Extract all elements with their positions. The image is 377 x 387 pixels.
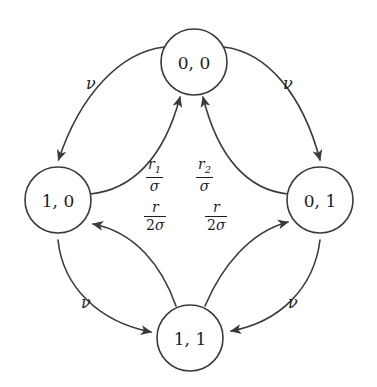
edge-label-r-over-2sigma-right: r 2σ	[205, 200, 227, 233]
denominator-coefficient: 2	[146, 217, 155, 233]
node-label-0-1: 0, 1	[304, 191, 336, 211]
node-label-1-0: 1, 0	[42, 191, 74, 211]
fraction-denominator: 2σ	[144, 217, 166, 233]
edge-11-to-10	[93, 224, 176, 306]
denominator-coefficient: 2	[207, 217, 216, 233]
edge-label-r-over-2sigma-left: r 2σ	[144, 200, 166, 233]
edge-10-to-11	[58, 240, 151, 332]
edge-11-to-01	[205, 222, 288, 306]
edge-label-nu-bottom-right: ν	[288, 295, 298, 311]
fraction-r2-sigma: r2 σ	[196, 157, 213, 194]
fraction-denominator: 2σ	[205, 217, 227, 233]
fraction-numerator: r	[144, 200, 166, 216]
denominator-symbol: σ	[216, 217, 226, 233]
numerator-symbol: r	[198, 156, 205, 172]
edge-00-to-01	[224, 47, 321, 160]
edge-10-to-00	[90, 97, 180, 194]
edge-label-nu-top-right: ν	[283, 76, 293, 92]
fraction-numerator: r1	[146, 157, 163, 177]
fraction-r-2sigma: r 2σ	[144, 200, 166, 233]
fraction-denominator: σ	[196, 178, 213, 194]
edge-01-to-00	[203, 97, 288, 194]
diagram-svg: 0, 0 1, 0 0, 1 1, 1	[0, 0, 377, 387]
state-transition-diagram: 0, 0 1, 0 0, 1 1, 1 ν ν ν ν r1 σ r2 σ r …	[0, 0, 377, 387]
denominator-symbol: σ	[155, 217, 165, 233]
numerator-subscript: 1	[155, 164, 161, 175]
edge-label-nu-top-left: ν	[86, 76, 96, 92]
edge-label-r2-over-sigma: r2 σ	[196, 157, 213, 194]
fraction-numerator: r2	[196, 157, 213, 177]
edge-00-to-10	[59, 47, 165, 160]
numerator-symbol: r	[148, 156, 155, 172]
node-label-0-0: 0, 0	[178, 53, 210, 73]
edge-label-nu-bottom-left: ν	[81, 295, 91, 311]
fraction-numerator: r	[205, 200, 227, 216]
edge-01-to-11	[231, 240, 320, 331]
fraction-r-2sigma: r 2σ	[205, 200, 227, 233]
numerator-subscript: 2	[205, 164, 211, 175]
node-label-1-1: 1, 1	[174, 329, 206, 349]
edge-label-r1-over-sigma: r1 σ	[146, 157, 163, 194]
fraction-r1-sigma: r1 σ	[146, 157, 163, 194]
fraction-denominator: σ	[146, 178, 163, 194]
